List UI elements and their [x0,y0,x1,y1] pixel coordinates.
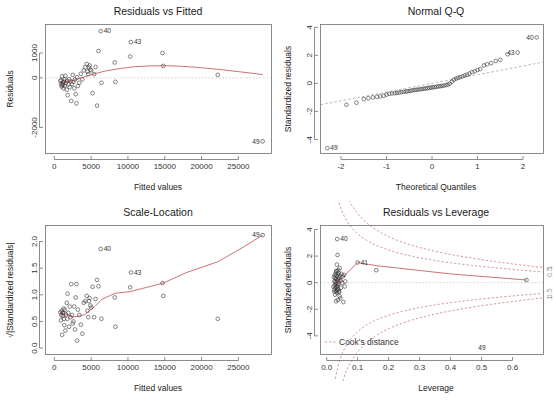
data-point [94,297,98,301]
y-tick-label: 4 [305,227,314,232]
data-point [66,93,70,97]
x-tick-label: 15000 [154,363,177,372]
x-axis-label: Fitted values [134,182,182,192]
point-label: 43 [134,269,142,276]
data-point [75,339,79,343]
y-axis-label: Residuals [5,70,15,107]
data-point [465,73,469,77]
data-point [516,51,520,55]
data-point [75,282,79,286]
x-axis-label: Fitted values [134,383,182,393]
data-point [374,268,378,272]
data-point [535,36,539,40]
data-point [343,285,347,289]
data-point [72,320,76,324]
point-label: 41 [361,259,369,266]
cooks-level-label: 0.5 [546,288,553,298]
x-tick-label: 0.6 [507,363,519,372]
y-tick-label: 0 [30,75,39,80]
y-tick-label: 2 [305,253,314,258]
data-point [114,80,118,84]
data-point [336,253,340,257]
data-point [494,59,498,63]
y-tick-label: -2 [305,305,314,313]
point-label: 40 [340,235,348,242]
data-point [79,72,83,76]
y-tick-label: 0.0 [30,342,39,354]
data-point [89,304,93,308]
normal-qq-svg: Normal Q-Q 404349 -2-1012-4-2024 Theoret… [278,0,556,201]
data-point [461,75,465,79]
data-point [161,51,165,55]
x-tick-label: 0.0 [321,363,333,372]
data-point [91,91,95,95]
data-point [485,62,489,66]
y-tick-label: 1.0 [30,289,39,301]
data-point [86,315,90,319]
residuals-vs-leverage-svg: Residuals vs Leverage 110.50.5 404149 0.… [278,201,556,402]
data-point [216,73,220,77]
data-point [76,308,80,312]
y-tick-label: 0.5 [30,315,39,327]
data-point [66,292,70,296]
data-layer: 404349 [46,27,272,144]
data-point [69,282,73,286]
x-tick-label: 1 [475,162,480,171]
y-tick-label: -4 [305,135,314,143]
x-tick-label: 0 [52,363,57,372]
point-label: 49 [330,144,338,151]
data-layer: 404349 [321,34,544,152]
y-tick-label: -2 [305,107,314,115]
x-tick-label: 0.4 [445,363,457,372]
x-tick-label: 10000 [117,162,140,171]
data-point [366,96,370,100]
data-point [97,284,101,288]
axes-layer: -2-1012-4-2024 [305,25,526,171]
data-point [128,285,132,289]
residuals-vs-fitted-svg: Residuals vs Fitted 404349 0500010000150… [0,0,278,201]
point-label: 49 [252,231,260,238]
data-point [92,315,96,319]
x-tick-label: 0.5 [476,363,488,372]
data-point [261,139,265,143]
data-point [78,81,82,85]
y-tick-label: 2 [305,53,314,58]
x-tick-label: 25000 [227,363,250,372]
x-tick-label: 20000 [190,162,213,171]
data-point [458,75,462,79]
panel-title: Residuals vs Fitted [114,5,203,17]
x-tick-label: 0 [52,162,57,171]
data-point [335,263,339,267]
data-point [80,332,84,336]
y-tick-label: 1000 [30,44,39,62]
x-axis-label: Leverage [418,383,454,393]
x-tick-label: 0 [430,162,435,171]
panel-residuals-vs-fitted: Residuals vs Fitted 404349 0500010000150… [0,0,278,201]
data-point [97,49,101,53]
data-point [113,296,117,300]
cooks-distance-legend-label: Cook's distance [339,337,399,347]
x-tick-label: 0.1 [352,363,364,372]
data-point [72,305,76,309]
data-point [73,328,77,332]
data-point [99,247,103,251]
y-tick-label: 0 [305,81,314,86]
y-axis-label: Standardized residuals [283,247,293,333]
x-tick-label: 20000 [190,363,213,372]
point-label: 43 [134,38,142,45]
plot-frame [46,25,272,154]
panel-residuals-vs-leverage: Residuals vs Leverage 110.50.5 404149 0.… [278,201,556,402]
y-tick-label: 2.0 [30,235,39,247]
data-point [100,81,104,85]
x-tick-label: 10000 [117,363,140,372]
loess-smooth-line [334,262,527,284]
data-point [72,86,76,90]
data-point [79,323,83,327]
data-point [67,325,71,329]
data-point [95,278,99,282]
data-layer: 404149 [321,235,544,351]
data-point [114,325,118,329]
data-point [71,73,75,77]
data-layer: 404349 [59,231,265,342]
x-axis-label: Theoretical Quantiles [396,182,476,192]
